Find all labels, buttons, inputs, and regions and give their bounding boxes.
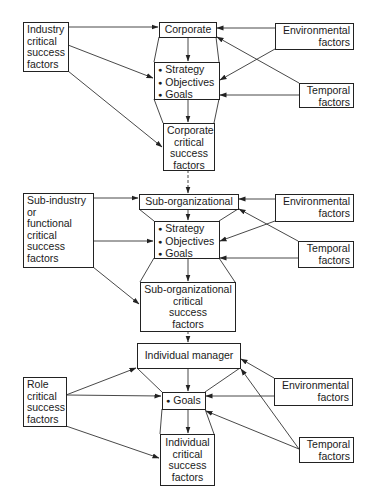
box-text-line: factors <box>302 255 350 267</box>
box-label: Corporate <box>163 24 213 36</box>
bullet-item: Goals <box>158 248 216 261</box>
individual-manager-level-box: Individual manager <box>137 343 241 369</box>
box-text-line: success <box>27 402 63 414</box>
box-text-line: factors <box>167 160 211 172</box>
box-text-line: Individual <box>164 437 211 449</box>
box-text-line: success <box>164 460 211 472</box>
strategy-objectives-goals-box-2: Strategy Objectives Goals <box>154 221 220 259</box>
box-text-line: factors <box>303 97 350 109</box>
box-text-line: Industry <box>27 24 65 36</box>
box-text-line: Environmental <box>279 25 350 37</box>
sub-industry-csf-box: Sub-industry or functional critical succ… <box>23 193 94 268</box>
goals-box: Goals <box>162 392 206 410</box>
box-text-line: factors <box>279 37 350 49</box>
box-text-line: factors <box>27 414 63 426</box>
box-label: Sub-organizational <box>143 196 235 208</box>
box-text-line: Temporal <box>303 439 350 451</box>
box-text-line: factors <box>279 208 350 220</box>
box-text-line: factors <box>144 319 232 331</box>
box-label: Individual manager <box>141 350 237 362</box>
box-text-line: Corporate <box>167 125 211 137</box>
environmental-factors-box-1: Environmental factors <box>275 23 354 50</box>
box-text-line: factors <box>27 59 65 71</box>
box-text-line: factors <box>164 472 211 484</box>
box-text-line: factors <box>27 253 90 265</box>
role-csf-box: Role critical success factors <box>23 377 67 427</box>
box-text-line: success <box>27 47 65 59</box>
box-text-line: functional <box>27 218 90 230</box>
box-text-line: Temporal <box>303 85 350 97</box>
individual-csf-box: Individual critical success factors <box>160 434 215 486</box>
industry-csf-box: Industry critical success factors <box>23 22 69 72</box>
box-text-line: success <box>167 148 211 160</box>
sub-organizational-level-box: Sub-organizational <box>139 194 239 210</box>
environmental-factors-box-2: Environmental factors <box>275 194 354 222</box>
strategy-objectives-goals-box-1: Strategy Objectives Goals <box>154 62 220 100</box>
box-text-line: Role <box>27 379 63 391</box>
bullet-item: Strategy <box>158 64 216 77</box>
corporate-csf-box: Corporate critical success factors <box>163 123 215 171</box>
corporate-level-box: Corporate <box>159 22 217 38</box>
temporal-factors-box-3: Temporal factors <box>299 437 354 463</box>
box-text-line: success <box>144 307 232 319</box>
bullet-item: Strategy <box>158 223 216 236</box>
box-text-line: Environmental <box>278 380 349 392</box>
box-text-line: factors <box>278 392 349 404</box>
environmental-factors-box-3: Environmental factors <box>274 378 353 406</box>
bullet-item: Goals <box>166 395 202 408</box>
box-text-line: Sub-industry <box>27 195 90 207</box>
box-text-line: Temporal <box>302 243 350 255</box>
box-text-line: Sub-organizational <box>144 284 232 296</box>
bullet-item: Goals <box>158 89 216 102</box>
box-text-line: factors <box>303 451 350 463</box>
temporal-factors-box-2: Temporal factors <box>298 241 354 268</box>
box-text-line: Environmental <box>279 196 350 208</box>
sub-organizational-csf-box: Sub-organizational critical success fact… <box>140 282 236 332</box>
box-text-line: success <box>27 241 90 253</box>
temporal-factors-box-1: Temporal factors <box>299 83 354 108</box>
